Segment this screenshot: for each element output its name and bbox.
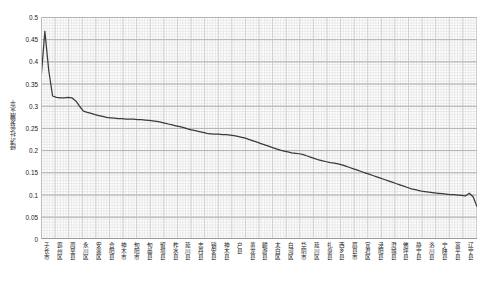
x-axis-tick-label: 周至县	[70, 242, 76, 261]
x-axis-tick-label: 子长市	[44, 242, 50, 261]
x-axis-tick-label: 泾阳县	[378, 242, 384, 261]
x-axis-tick-label: 延川县	[185, 242, 191, 261]
x-axis-tick-label: 合阳县	[109, 242, 115, 261]
y-axis-tick-label: 0.5	[29, 14, 38, 21]
y-axis-tick-label: 0.2	[29, 147, 38, 154]
x-axis-tick-label: 宁陕县	[442, 242, 448, 261]
y-axis-tick-label: 0.45	[26, 36, 38, 43]
plot-area	[41, 17, 477, 239]
x-axis-tick-label: 静宁县	[416, 242, 422, 261]
x-axis-tick-label: 霸州区	[57, 242, 63, 261]
x-axis-tick-label: 富平县	[455, 242, 461, 261]
y-axis-tick-label: 0.1	[29, 191, 38, 198]
y-axis-tick-label: 0.3	[29, 102, 38, 109]
chart-container: 经济社会发展水平 00.050.10.150.20.250.30.350.40.…	[0, 0, 487, 300]
x-axis-tick-label: 佛坪县	[403, 242, 409, 261]
x-axis-tick-label: 志丹县	[198, 242, 204, 261]
x-axis-tick-label: 白河区	[288, 242, 294, 261]
y-axis-tick-labels: 00.050.10.150.20.250.30.350.40.450.5	[18, 0, 40, 300]
x-axis-tick-labels: 子长市霸州区周至县永川区安塞区合阳县神木市旬阳市旬邑县留坝县柞水县延川县志丹县镇…	[41, 240, 477, 300]
x-axis-tick-label: 眉县市	[352, 242, 358, 261]
x-axis-tick-label: 太白区	[275, 242, 281, 261]
series-line	[41, 31, 477, 206]
x-axis-tick-label: 黄龙县	[250, 242, 256, 261]
x-axis-tick-label: 安塞区	[96, 242, 102, 261]
y-axis-tick-label: 0.4	[29, 58, 38, 65]
x-axis-tick-label: 旬邑县	[147, 242, 153, 261]
x-axis-tick-label: 留坝县	[160, 242, 166, 261]
y-axis-tick-label: 0.25	[26, 125, 38, 132]
x-axis-tick-label: 西乡县	[339, 242, 345, 261]
x-axis-tick-label: 礼泉县	[327, 242, 333, 261]
x-axis-tick-label: 华阴市	[301, 242, 307, 261]
x-axis-tick-label: 神木县	[224, 242, 230, 261]
y-axis-tick-label: 0.15	[26, 169, 38, 176]
x-axis-tick-label: 户县	[237, 242, 243, 254]
line-series	[41, 17, 477, 239]
x-axis-tick-label: 澄城县	[391, 242, 397, 261]
y-axis-tick-label: 0	[34, 236, 38, 243]
x-axis-tick-label: 神木市	[121, 242, 127, 261]
x-axis-tick-label: 柞水县	[173, 242, 179, 261]
x-axis-tick-label: 宜君区	[365, 242, 371, 261]
x-axis-tick-label: 辽宁县	[468, 242, 474, 261]
x-axis-tick-label: 镇安县	[211, 242, 217, 261]
x-axis-tick-label: 延川区	[314, 242, 320, 261]
x-axis-tick-label: 洛川县	[429, 242, 435, 261]
x-axis-tick-label: 永川区	[83, 242, 89, 261]
x-axis-tick-label: 麟游县	[262, 242, 268, 261]
y-axis-tick-label: 0.35	[26, 80, 38, 87]
x-axis-tick-label: 旬阳市	[134, 242, 140, 261]
y-axis-tick-label: 0.05	[26, 213, 38, 220]
